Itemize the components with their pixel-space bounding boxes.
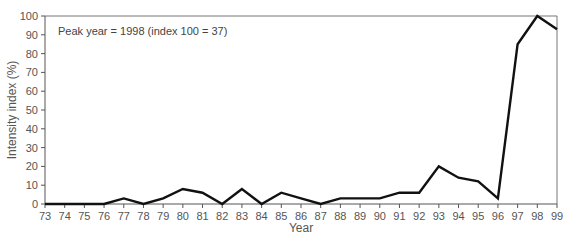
x-tick-label: 85: [275, 210, 287, 222]
x-tick-label: 77: [118, 210, 130, 222]
x-tick-label: 92: [413, 210, 425, 222]
y-tick-label: 80: [26, 48, 38, 60]
y-tick-label: 90: [26, 29, 38, 41]
x-tick-label: 78: [137, 210, 149, 222]
line-chart: 0102030405060708090100 73747576777879808…: [0, 0, 575, 236]
y-axis-label: Intensity index (%): [5, 61, 19, 160]
x-tick-label: 91: [393, 210, 405, 222]
x-tick-label: 75: [78, 210, 90, 222]
data-line: [45, 16, 557, 204]
x-tick-label: 99: [551, 210, 563, 222]
x-tick-label: 93: [433, 210, 445, 222]
x-tick-label: 88: [334, 210, 346, 222]
x-tick-label: 82: [216, 210, 228, 222]
x-axis: 7374757677787980818283848586878889909192…: [39, 204, 563, 222]
x-tick-label: 87: [315, 210, 327, 222]
y-tick-label: 60: [26, 85, 38, 97]
x-tick-label: 76: [98, 210, 110, 222]
plot-frame: [45, 16, 557, 204]
x-tick-label: 94: [452, 210, 464, 222]
x-tick-label: 89: [354, 210, 366, 222]
y-axis: 0102030405060708090100: [20, 10, 45, 210]
y-tick-label: 0: [32, 198, 38, 210]
x-tick-label: 97: [511, 210, 523, 222]
y-tick-label: 10: [26, 179, 38, 191]
peak-annotation: Peak year = 1998 (index 100 = 37): [58, 25, 227, 37]
y-tick-label: 70: [26, 66, 38, 78]
y-tick-label: 50: [26, 104, 38, 116]
x-tick-label: 90: [374, 210, 386, 222]
y-tick-label: 100: [20, 10, 38, 22]
x-axis-label: Year: [289, 221, 313, 235]
x-tick-label: 98: [531, 210, 543, 222]
x-tick-label: 81: [196, 210, 208, 222]
y-tick-label: 30: [26, 142, 38, 154]
x-tick-label: 80: [177, 210, 189, 222]
x-tick-label: 74: [59, 210, 71, 222]
x-tick-label: 96: [492, 210, 504, 222]
x-tick-label: 83: [236, 210, 248, 222]
x-tick-label: 73: [39, 210, 51, 222]
y-tick-label: 40: [26, 123, 38, 135]
y-tick-label: 20: [26, 160, 38, 172]
x-tick-label: 84: [255, 210, 267, 222]
x-tick-label: 95: [472, 210, 484, 222]
x-tick-label: 79: [157, 210, 169, 222]
